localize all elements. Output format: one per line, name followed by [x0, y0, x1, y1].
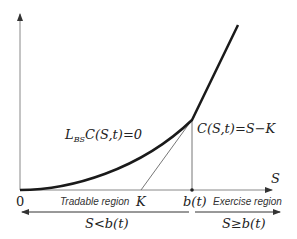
x-axis-label: S: [271, 171, 280, 186]
pde-equation: LBSC(S,t)=0: [64, 127, 142, 144]
exercise-condition: S≥b(t): [222, 216, 266, 231]
option-value-curve: [20, 25, 238, 190]
exercise-region-label: Exercise region: [213, 196, 282, 207]
boundary-point: [190, 188, 194, 192]
tradable-region-label: Tradable region: [60, 196, 130, 207]
payoff-equation: C(S,t)=S−K: [197, 121, 277, 136]
boundary-label: b(t): [183, 194, 207, 209]
origin-label: 0: [16, 194, 24, 209]
tradable-condition: S<b(t): [85, 216, 129, 231]
option-diagram: C(S,t)=S−K LBSC(S,t)=0 S 0 K b(t) Tradab…: [0, 0, 297, 239]
strike-label: K: [135, 194, 147, 209]
